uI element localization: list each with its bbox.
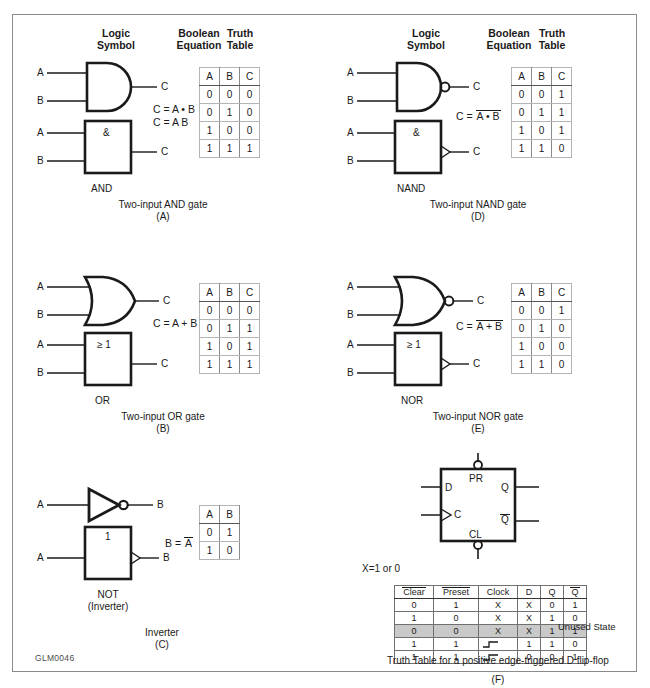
and-gate-iec-symbol	[41, 119, 181, 185]
truth-table-cell: 0	[532, 338, 552, 356]
truth-table-cell: 0	[220, 122, 240, 140]
flipflop-qbar-text: Q	[500, 514, 510, 526]
not-letter: (C)	[107, 639, 217, 651]
nand-input-b-label: B	[347, 95, 354, 106]
flipflop-cell: 1	[395, 638, 434, 651]
nor-iec-operator-label: ≥ 1	[407, 339, 421, 350]
truth-table-header-cell: B	[532, 68, 552, 86]
flipflop-cell: 1	[564, 599, 587, 612]
truth-table-cell: 1	[200, 140, 220, 158]
or-input-a-label: A	[37, 281, 44, 292]
truth-table-header-row: AB	[200, 506, 240, 524]
nand-caption-block: Two-input NAND gate (D)	[383, 199, 573, 223]
truth-table-cell: 1	[240, 140, 260, 158]
truth-table-cell: 1	[512, 140, 532, 158]
and-output-c-label: C	[161, 81, 168, 92]
flipflop-cell: 0	[541, 599, 564, 612]
flipflop-d-label: D	[445, 482, 452, 493]
and-iec-output-c-label: C	[161, 146, 168, 157]
not-iec-name-line1: NOT	[75, 589, 141, 601]
truth-table-header-cell: A	[512, 68, 532, 86]
nor-iec-input-b-label: B	[347, 367, 354, 378]
or-output-c-label: C	[163, 295, 170, 306]
and-iec-input-a-label: A	[37, 127, 44, 138]
not-equation-overbar: A	[184, 537, 193, 549]
nor-iec-output-c-label: C	[473, 358, 480, 369]
truth-table-cell: 0	[552, 140, 572, 158]
not-gate-ansi-symbol	[41, 481, 191, 531]
truth-table-cell: 0	[240, 86, 260, 104]
truth-table-cell: 0	[552, 356, 572, 374]
header-truth-line2-r: Table	[521, 39, 583, 51]
d-flip-flop-symbol	[421, 453, 571, 563]
nand-iec-output-c-label: C	[473, 146, 480, 157]
nand-caption: Two-input NAND gate	[383, 199, 573, 211]
truth-table-cell: 0	[200, 320, 220, 338]
and-caption: Two-input AND gate	[73, 199, 253, 211]
truth-table-cell: 1	[552, 302, 572, 320]
not-iec-input-a-label: A	[37, 552, 44, 563]
overbar-text: Preset	[442, 587, 470, 597]
truth-table-cell: 1	[200, 338, 220, 356]
truth-table-cell: 0	[200, 86, 220, 104]
flipflop-q-label: Q	[501, 482, 509, 493]
flipflop-row: 11110	[395, 638, 587, 651]
not-iec-name-block: NOT (Inverter)	[75, 589, 141, 613]
flipflop-cell: 0	[395, 625, 434, 638]
truth-table-cell: 1	[532, 140, 552, 158]
truth-table-cell: 1	[220, 320, 240, 338]
truth-table-cell: 1	[240, 320, 260, 338]
truth-table-cell: 0	[200, 302, 220, 320]
truth-table-row: 10	[200, 542, 240, 560]
or-iec-input-a-label: A	[37, 339, 44, 350]
truth-table-cell: 0	[220, 86, 240, 104]
truth-table-cell: 1	[532, 104, 552, 122]
truth-table-cell: 0	[552, 320, 572, 338]
nor-caption-block: Two-input NOR gate (E)	[383, 411, 573, 435]
flipflop-cell: 1	[434, 638, 479, 651]
truth-table-row: 01	[200, 524, 240, 542]
truth-table-cell: 0	[240, 104, 260, 122]
header-logic-line2-r: Symbol	[391, 39, 461, 51]
truth-table-row: 001	[512, 86, 572, 104]
flipflop-row: 01XX01	[395, 599, 587, 612]
truth-table-cell: 1	[512, 356, 532, 374]
header-logic-line1: Logic	[81, 27, 151, 39]
truth-table-cell: 0	[220, 542, 240, 560]
nor-input-b-label: B	[347, 309, 354, 320]
truth-table-header-row: ABC	[512, 284, 572, 302]
header-truth-line1-r: Truth	[521, 27, 583, 39]
not-caption-block: Inverter (C)	[107, 627, 217, 651]
nand-truth-table: ABC001011101110	[511, 67, 572, 158]
truth-table-header-cell: B	[220, 68, 240, 86]
truth-table-cell: 0	[532, 86, 552, 104]
flipflop-cell: X	[518, 599, 541, 612]
truth-table-cell: 0	[200, 104, 220, 122]
flipflop-cell: X	[479, 612, 518, 625]
truth-table-header-cell: B	[532, 284, 552, 302]
truth-table-cell: 1	[220, 524, 240, 542]
or-iec-input-b-label: B	[37, 367, 44, 378]
or-gate-iec-symbol	[41, 331, 181, 397]
flipflop-header-cell: Q	[564, 586, 587, 599]
truth-table-cell: 0	[552, 338, 572, 356]
nor-output-c-label: C	[477, 295, 484, 306]
truth-table-header-cell: C	[240, 68, 260, 86]
header-logic-symbol-right: Logic Symbol	[391, 27, 461, 51]
truth-table-header-cell: A	[200, 506, 220, 524]
truth-table-header-cell: A	[200, 284, 220, 302]
not-output-b-label: B	[157, 499, 164, 510]
section-nor: A B C A B ≥ 1 C NOR	[351, 273, 501, 343]
truth-table-cell: 1	[532, 320, 552, 338]
truth-table-row: 100	[200, 122, 260, 140]
or-equation: C = A + B	[153, 317, 197, 329]
flipflop-cell: 0	[434, 625, 479, 638]
rising-edge-icon	[479, 638, 518, 651]
flipflop-header-cell: Clock	[479, 586, 518, 599]
not-equation: B = A	[165, 537, 193, 549]
truth-table-cell: 0	[532, 302, 552, 320]
truth-table-header-row: ABC	[200, 68, 260, 86]
flipflop-preset-label: PR	[469, 473, 483, 484]
or-input-b-label: B	[37, 309, 44, 320]
truth-table-header-row: ABC	[512, 68, 572, 86]
